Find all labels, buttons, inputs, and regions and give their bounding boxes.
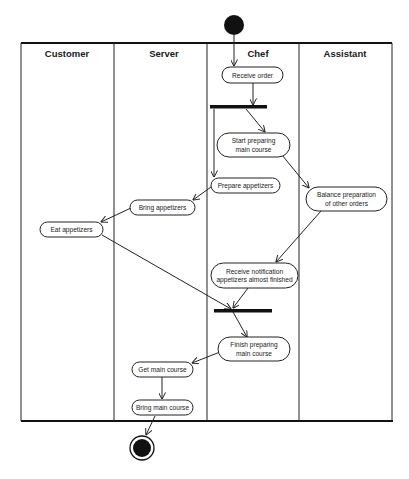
join-bar	[214, 309, 272, 313]
lane-title-customer: Customer	[45, 48, 90, 59]
activity-label: Get main course	[138, 366, 187, 373]
edge-finish-main-to-get-main	[192, 352, 220, 363]
edge-fork-to-start-main	[246, 109, 265, 132]
activity-receive-notification: Receive notification appetizers almost f…	[211, 263, 298, 288]
activity-label-line-1: Balance preparation	[317, 191, 376, 199]
activity-bring-main-course: Bring main course	[132, 400, 193, 415]
edge-receive-notification-to-join	[233, 288, 248, 308]
edge-start-main-to-balance	[282, 155, 309, 188]
edge-bring-to-eat-appetizers	[101, 208, 131, 222]
initial-node	[224, 15, 244, 35]
activity-diagram: Customer Server Chef Assistant Receive o…	[0, 0, 409, 479]
activity-label-line-1: Start preparing	[232, 137, 276, 145]
activity-label: Bring appetizers	[139, 204, 187, 212]
activity-eat-appetizers: Eat appetizers	[40, 222, 103, 237]
edge-prepare-to-bring-appetizers	[193, 187, 211, 200]
activity-label-line-1: Receive notification	[226, 268, 284, 275]
activity-finish-preparing-main-course: Finish preparing main course	[218, 337, 290, 361]
final-node-inner-dot	[133, 439, 151, 457]
activity-receive-order: Receive order	[222, 67, 283, 83]
activity-start-preparing-main-course: Start preparing main course	[217, 133, 290, 157]
lane-title-server: Server	[149, 48, 179, 59]
activity-bring-appetizers: Bring appetizers	[130, 200, 195, 215]
edge-join-to-finish-main	[233, 312, 247, 337]
activity-label: Bring main course	[136, 404, 189, 412]
activity-balance-preparation: Balance preparation of other orders	[306, 187, 387, 211]
activity-label: Receive order	[232, 72, 274, 79]
fork-bar	[210, 105, 267, 109]
activity-label: Eat appetizers	[50, 226, 93, 234]
activity-label: Prepare appetizers	[218, 182, 274, 190]
edge-bring-main-to-final	[146, 416, 155, 435]
activity-label-line-2: appetizers almost finished	[216, 276, 293, 284]
activity-label-line-2: main course	[236, 350, 272, 357]
activity-get-main-course: Get main course	[132, 362, 193, 377]
activity-label-line-2: of other orders	[325, 200, 369, 207]
final-node	[130, 436, 154, 460]
activity-label-line-2: main course	[236, 146, 272, 153]
activity-label-line-1: Finish preparing	[230, 341, 278, 349]
lane-title-chef: Chef	[247, 48, 269, 59]
lane-title-assistant: Assistant	[324, 48, 368, 59]
activity-prepare-appetizers: Prepare appetizers	[211, 178, 280, 193]
